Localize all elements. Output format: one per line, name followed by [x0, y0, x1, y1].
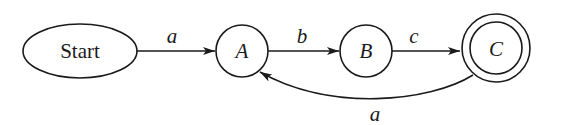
edge-label-start-a: a — [167, 24, 178, 48]
edge-label-c-a: a — [370, 102, 381, 125]
node-a: A — [216, 25, 268, 77]
edge-label-b-c: c — [409, 24, 419, 48]
node-b: B — [340, 25, 392, 77]
edge-a-to-b: b — [268, 24, 339, 51]
node-start: Start — [23, 24, 137, 78]
node-label-a: A — [234, 39, 249, 63]
node-label-c: C — [489, 37, 504, 61]
edge-start-to-a: a — [137, 24, 215, 51]
node-label-b: B — [360, 39, 373, 63]
node-c: C — [462, 14, 530, 82]
edge-label-a-b: b — [297, 24, 308, 48]
node-label-start: Start — [60, 39, 100, 63]
edge-c-to-a: a — [260, 72, 473, 125]
fsa-diagram: a b c a Start A B C — [0, 0, 567, 125]
edge-b-to-c: c — [392, 24, 460, 51]
